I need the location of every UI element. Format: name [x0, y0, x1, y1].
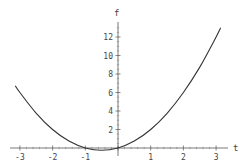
- y-tick-label: 12: [103, 33, 113, 42]
- y-tick-label: 8: [108, 70, 113, 79]
- y-tick-label: 6: [108, 89, 113, 98]
- y-tick-label: 2: [108, 126, 113, 135]
- x-tick-label: -1: [80, 153, 90, 162]
- x-tick-label: 2: [181, 153, 186, 162]
- x-axis-label: t: [233, 143, 238, 153]
- x-tick-label: -3: [15, 153, 25, 162]
- line-chart: -3-2-112324681012 t f: [0, 0, 248, 163]
- x-tick-label: 1: [148, 153, 153, 162]
- y-axis-label: f: [114, 8, 119, 18]
- x-tick-label: -2: [48, 153, 58, 162]
- axes: -3-2-112324681012: [10, 22, 228, 162]
- y-tick-label: 4: [108, 107, 113, 116]
- y-tick-label: 10: [103, 52, 113, 61]
- x-tick-label: 3: [214, 153, 219, 162]
